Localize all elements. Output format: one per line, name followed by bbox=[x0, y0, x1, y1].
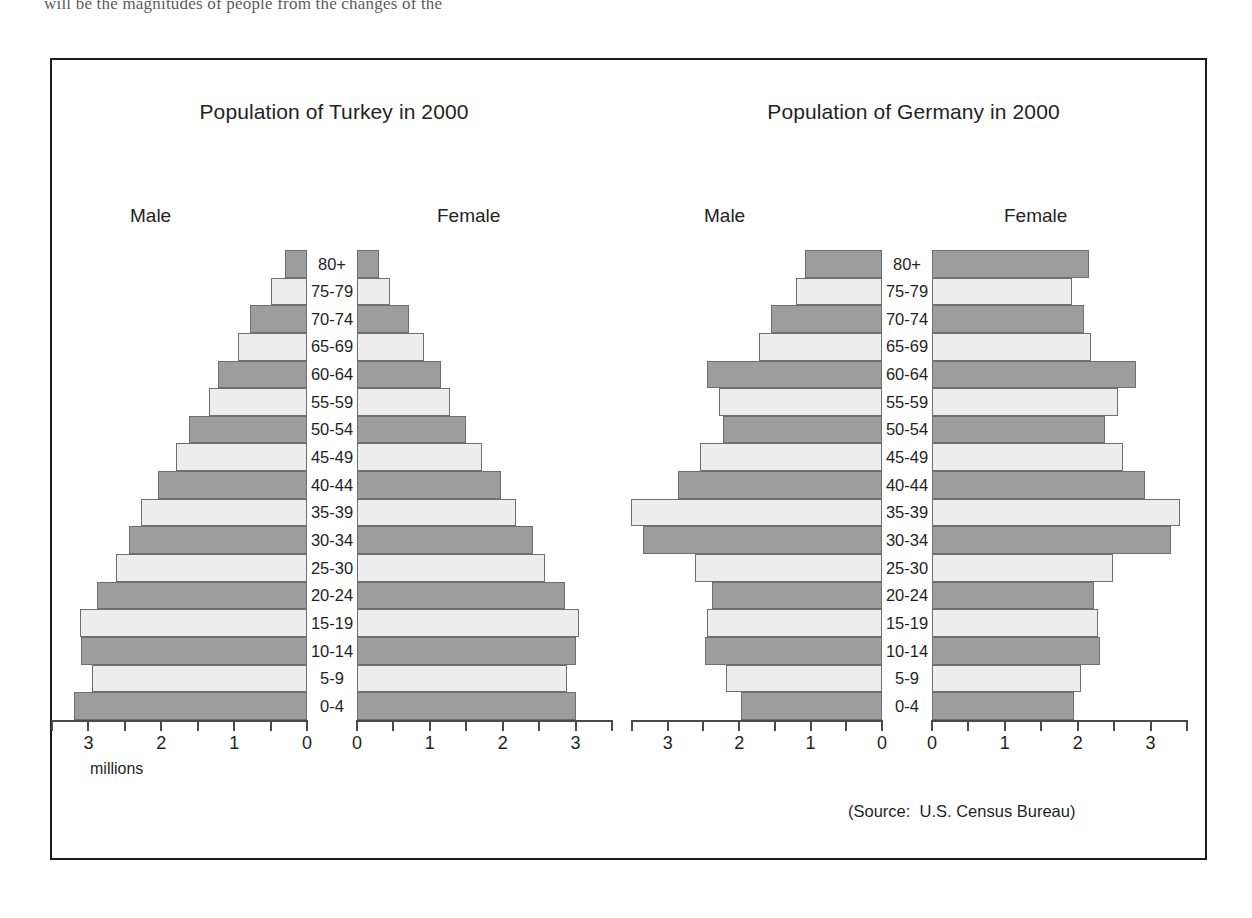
chart-title-turkey: Population of Turkey in 2000 bbox=[44, 100, 624, 124]
axis-tick bbox=[160, 720, 162, 731]
pyramid-row bbox=[632, 278, 882, 306]
bar-female-65-69 bbox=[357, 333, 424, 361]
pyramid-row bbox=[357, 637, 612, 665]
pyramid-row bbox=[932, 665, 1187, 693]
pyramid-row bbox=[357, 333, 612, 361]
age-group-label: 75-79 bbox=[307, 278, 357, 306]
bar-male-10-14 bbox=[81, 637, 307, 665]
axis-tick-label: 3 bbox=[1146, 733, 1156, 754]
axis-tick bbox=[1113, 720, 1115, 731]
age-group-label: 35-39 bbox=[882, 499, 932, 527]
pyramid-row bbox=[52, 443, 307, 471]
bar-male-15-19 bbox=[707, 609, 882, 637]
bar-male-50-54 bbox=[723, 416, 882, 444]
axis-tick-label: 1 bbox=[1000, 733, 1010, 754]
female-bars-turkey bbox=[357, 250, 612, 720]
axis-tick bbox=[702, 720, 704, 731]
bar-female-30-34 bbox=[932, 526, 1171, 554]
pyramid-row bbox=[357, 361, 612, 389]
axis-tick-label: 1 bbox=[806, 733, 816, 754]
axis-tick bbox=[667, 720, 669, 731]
age-group-labels-germany: 80+75-7970-7465-6960-6455-5950-5445-4940… bbox=[882, 250, 932, 720]
age-group-label: 55-59 bbox=[307, 388, 357, 416]
pyramid-row bbox=[932, 388, 1187, 416]
male-bars-germany bbox=[632, 250, 882, 720]
pyramid-row bbox=[932, 554, 1187, 582]
male-label-turkey: Male bbox=[130, 205, 171, 227]
axis-tick bbox=[774, 720, 776, 731]
pyramid-row bbox=[932, 499, 1187, 527]
pyramid-row bbox=[632, 443, 882, 471]
axis-tick bbox=[931, 720, 933, 731]
age-group-label: 40-44 bbox=[307, 471, 357, 499]
pyramid-row bbox=[632, 609, 882, 637]
axis-tick-label: 0 bbox=[352, 733, 362, 754]
pyramid-row bbox=[932, 250, 1187, 278]
chart-panel-turkey: Population of Turkey in 2000 Male Female… bbox=[52, 60, 632, 858]
bar-male-70-74 bbox=[250, 305, 307, 333]
bar-female-75-79 bbox=[357, 278, 390, 306]
bar-female-45-49 bbox=[932, 443, 1123, 471]
age-group-label: 5-9 bbox=[307, 665, 357, 693]
bar-female-25-30 bbox=[932, 554, 1113, 582]
pyramid-row bbox=[632, 305, 882, 333]
pyramid-row bbox=[357, 526, 612, 554]
pyramid-row bbox=[932, 582, 1187, 610]
bar-female-45-49 bbox=[357, 443, 482, 471]
axis-tick-label: 0 bbox=[302, 733, 312, 754]
pyramid-row bbox=[357, 609, 612, 637]
page-partial-text: will be the magnitudes of people from th… bbox=[44, 0, 764, 16]
axis-male-germany: 0123 bbox=[632, 720, 882, 780]
pyramid-row bbox=[357, 416, 612, 444]
axis-tick-label: 3 bbox=[663, 733, 673, 754]
axis-female-turkey: 0123 bbox=[357, 720, 612, 780]
bar-male-0-4 bbox=[74, 692, 307, 720]
bar-male-30-34 bbox=[643, 526, 882, 554]
axis-tick bbox=[392, 720, 394, 731]
axis-tick bbox=[124, 720, 126, 731]
pyramid-row bbox=[632, 416, 882, 444]
bar-female-80+ bbox=[357, 250, 379, 278]
bar-male-0-4 bbox=[741, 692, 882, 720]
pyramid-row bbox=[632, 471, 882, 499]
age-group-label: 0-4 bbox=[307, 692, 357, 720]
pyramid-row bbox=[52, 388, 307, 416]
axis-tick bbox=[575, 720, 577, 731]
bar-female-5-9 bbox=[357, 665, 567, 693]
pyramid-row bbox=[357, 582, 612, 610]
axis-tick bbox=[502, 720, 504, 731]
bar-male-35-39 bbox=[631, 499, 882, 527]
bar-male-30-34 bbox=[129, 526, 308, 554]
pyramid-row bbox=[632, 388, 882, 416]
pyramid-row bbox=[932, 637, 1187, 665]
bar-male-40-44 bbox=[158, 471, 307, 499]
pyramid-plot-turkey: 80+75-7970-7465-6960-6455-5950-5445-4940… bbox=[52, 250, 632, 720]
bar-male-5-9 bbox=[726, 665, 882, 693]
bar-female-20-24 bbox=[932, 582, 1094, 610]
bar-female-35-39 bbox=[932, 499, 1180, 527]
bar-female-15-19 bbox=[932, 609, 1098, 637]
axis-tick bbox=[233, 720, 235, 731]
bar-female-80+ bbox=[932, 250, 1089, 278]
pyramid-row bbox=[932, 416, 1187, 444]
pyramid-row bbox=[632, 692, 882, 720]
bar-female-25-30 bbox=[357, 554, 545, 582]
bar-female-0-4 bbox=[932, 692, 1074, 720]
age-group-label: 40-44 bbox=[882, 471, 932, 499]
bar-male-65-69 bbox=[759, 333, 882, 361]
pyramid-row bbox=[52, 499, 307, 527]
pyramid-row bbox=[357, 471, 612, 499]
axis-tick bbox=[306, 720, 308, 731]
bar-male-70-74 bbox=[771, 305, 882, 333]
male-label-germany: Male bbox=[704, 205, 745, 227]
age-group-label: 10-14 bbox=[307, 637, 357, 665]
pyramid-row bbox=[52, 665, 307, 693]
bar-female-50-54 bbox=[932, 416, 1105, 444]
axis-tick bbox=[810, 720, 812, 731]
pyramid-row bbox=[632, 554, 882, 582]
bar-female-40-44 bbox=[932, 471, 1145, 499]
bar-female-5-9 bbox=[932, 665, 1081, 693]
axis-tick bbox=[51, 720, 53, 731]
age-group-label: 55-59 bbox=[882, 388, 932, 416]
pyramid-row bbox=[52, 305, 307, 333]
